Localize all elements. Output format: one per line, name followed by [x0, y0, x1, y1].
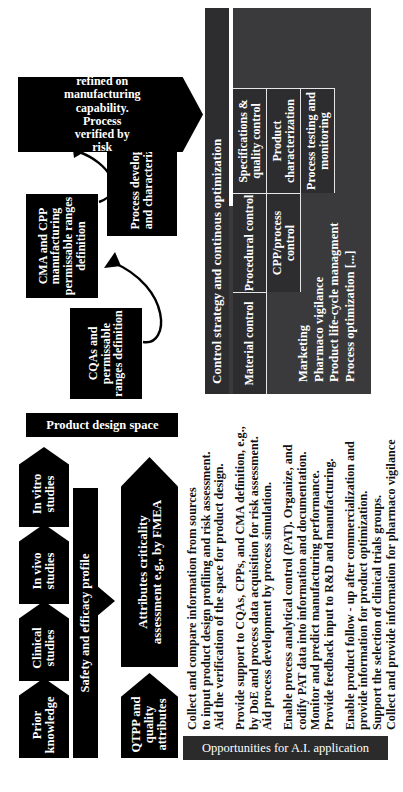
safety-label: Safety and efficacy profile	[79, 554, 92, 693]
lifecycle-list: Marketing Pharmaco vigilance Product lif…	[296, 192, 359, 382]
lifecycle-item: Marketing	[296, 192, 312, 382]
design-space-refined-box: Design space refined on manufacturing ca…	[18, 77, 203, 152]
text-line: Aid process development by process simul…	[260, 482, 274, 730]
qtpp-label: QTPP and quality attributes	[130, 691, 169, 758]
cma-cpp-box: CMA and CPP manufacturing permissable ra…	[26, 194, 98, 298]
cell-process-testing-monitoring: Process testing and monitoring	[301, 88, 335, 193]
ai-paragraph-development: Provide support to CQAs, CPPs, and CMA d…	[234, 400, 275, 730]
lifecycle-item: Pharmaco vigilance	[312, 192, 328, 382]
text-line: Provide support to CQAs, CPPs, and CMA d…	[233, 426, 247, 730]
input-label: In vitro studies	[31, 461, 57, 527]
cell-procedural-control: Procedural control	[233, 193, 267, 292]
text-line: Aid the verification of the space for pr…	[212, 463, 226, 730]
input-label: Prior knowledge	[31, 692, 57, 758]
input-in-vivo-studies: In vivo studies	[19, 524, 69, 604]
text-line: provide information for product optimiza…	[356, 491, 370, 730]
text-line: to input product design profiling and ri…	[199, 451, 213, 730]
cell-product-characterization: Product characterization	[267, 88, 301, 193]
ai-opportunities-header: Opportunities for A.I. application	[183, 736, 388, 760]
input-in-vitro-studies: In vitro studies	[19, 447, 69, 527]
text-line: Provide feedback input to R&D and manufa…	[322, 458, 336, 730]
product-design-space-label: Product design space	[46, 418, 158, 431]
control-strategy-title: Control strategy and continous optimizat…	[205, 8, 229, 394]
input-label: In vivo studies	[31, 538, 57, 604]
text-line: Support the selection of clinical trials…	[370, 495, 384, 730]
ai-opportunities-header-label: Opportunities for A.I. application	[202, 741, 369, 756]
criticality-box: Attributes criticality assessment e.g., …	[121, 457, 178, 667]
cma-cpp-label: CMA and CPP manufacturing permissable ra…	[37, 194, 87, 298]
text-line: codify PAT data into information and doc…	[295, 451, 309, 730]
text-line: Enable product follow - up after commerc…	[343, 441, 357, 730]
text-line: Enable process analytical control (PAT).…	[281, 445, 295, 731]
text-line: by DoE and process data acquisition for …	[247, 436, 261, 730]
criticality-label: Attributes criticality assessment e.g., …	[136, 485, 163, 659]
ai-opportunities-text: Collect and compare information from sou…	[186, 400, 403, 730]
ai-paragraph-design: Collect and compare information from sou…	[186, 400, 227, 730]
cell-label: Specifications & quality control	[237, 89, 262, 193]
qtpp-box: QTPP and quality attributes	[121, 673, 178, 758]
cell-label: Procedural control	[243, 195, 256, 292]
text-line: Collect and provide information for phar…	[384, 439, 398, 730]
input-label: Clinical studies	[31, 615, 57, 681]
cell-label: Material control	[243, 301, 256, 385]
cell-specifications-quality-control: Specifications & quality control	[233, 88, 267, 193]
control-strategy-title-label: Control strategy and continous optimizat…	[209, 139, 225, 384]
safety-efficacy-profile: Safety and efficacy profile	[73, 488, 98, 758]
ai-paragraph-lifecycle: Enable product follow - up after commerc…	[344, 400, 399, 730]
lifecycle-item: Process optimization [...]	[343, 192, 359, 382]
cell-label: Product characterization	[271, 89, 296, 193]
ai-paragraph-control: Enable process analytical control (PAT).…	[282, 400, 337, 730]
arrowhead-icon	[104, 252, 121, 268]
cqa-box: CQAs and permissable ranges definition	[70, 308, 142, 399]
text-line: Collect and compare information from sou…	[185, 487, 199, 730]
text-line: Monitor and predict manufacturing perfor…	[308, 470, 322, 730]
cell-material-control: Material control	[233, 292, 267, 394]
product-design-space: Product design space	[26, 413, 178, 437]
lifecycle-item: Product life-cycle managment	[327, 192, 343, 382]
cqa-label: CQAs and permissable ranges definition	[87, 308, 125, 399]
input-clinical-studies: Clinical studies	[19, 601, 69, 681]
cell-label: Process testing and monitoring	[305, 89, 330, 193]
cell-label: CPP/process control	[271, 194, 296, 292]
input-prior-knowledge: Prior knowledge	[19, 678, 69, 758]
